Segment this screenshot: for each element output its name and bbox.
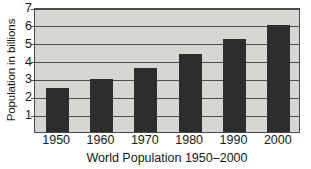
gridline (35, 98, 299, 99)
y-axis-tick-mark (31, 80, 35, 81)
y-axis-tick-mark (31, 44, 35, 45)
bar (267, 25, 290, 132)
x-axis-tick-label: 1970 (131, 134, 159, 148)
y-axis-tick-mark (31, 9, 35, 10)
x-axis-tick-label: 1990 (220, 134, 248, 148)
bar (134, 68, 157, 132)
y-axis-tick-mark (31, 98, 35, 99)
gridline (35, 44, 299, 45)
x-axis-tick-label: 1980 (175, 134, 203, 148)
bar (46, 88, 69, 132)
gridline (35, 9, 299, 10)
x-axis-tick-label: 2000 (264, 134, 292, 148)
gridline (35, 80, 299, 81)
y-axis-title-text: Population in billions (5, 19, 17, 122)
bar (223, 39, 246, 132)
gridline (35, 26, 299, 27)
gridline (35, 116, 299, 117)
y-axis-tick-mark (31, 116, 35, 117)
bar-chart: Population in billions 1234567 195019601… (0, 0, 311, 169)
x-axis-tick-labels: 195019601970198019902000 (34, 134, 300, 150)
x-axis-tick-label: 1960 (87, 134, 115, 148)
y-axis-tick-mark (31, 26, 35, 27)
x-axis-tick-label: 1950 (42, 134, 70, 148)
bar (90, 79, 113, 132)
bar (179, 54, 202, 132)
plot-area (34, 8, 300, 133)
gridline (35, 62, 299, 63)
x-axis-title: World Population 1950–2000 (34, 151, 300, 165)
y-axis-tick-mark (31, 62, 35, 63)
